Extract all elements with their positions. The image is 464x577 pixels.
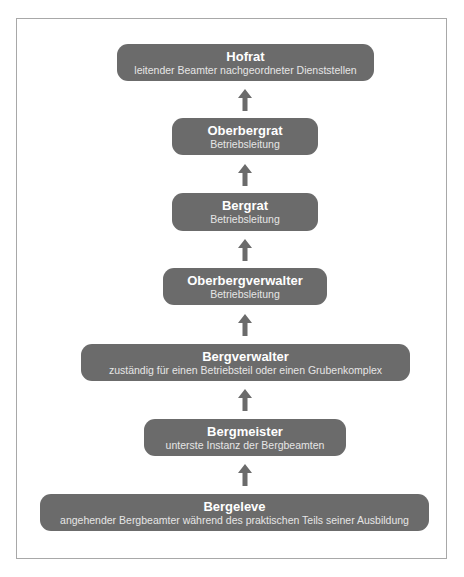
node-title: Bergverwalter <box>202 349 289 364</box>
node-bergverwalter: Bergverwalter zuständig für einen Betrie… <box>81 344 410 381</box>
node-subtitle: leitender Beamter nachgeordneter Diensts… <box>134 64 356 77</box>
arrow-up-icon <box>238 239 252 261</box>
node-title: Bergeleve <box>203 499 265 514</box>
node-title: Hofrat <box>226 49 264 64</box>
node-subtitle: unterste Instanz der Bergbeamten <box>166 439 325 452</box>
node-hofrat: Hofrat leitender Beamter nachgeordneter … <box>117 44 374 81</box>
arrow-up-icon <box>238 164 252 186</box>
node-bergrat: Bergrat Betriebsleitung <box>172 193 318 231</box>
arrow-up-icon <box>238 314 252 336</box>
node-title: Oberbergrat <box>207 123 282 138</box>
node-bergmeister: Bergmeister unterste Instanz der Bergbea… <box>144 419 346 456</box>
node-title: Bergmeister <box>207 424 283 439</box>
arrow-up-icon <box>238 389 252 411</box>
node-title: Bergrat <box>222 198 268 213</box>
node-oberbergverwalter: Oberbergverwalter Betriebsleitung <box>163 268 327 305</box>
node-title: Oberbergverwalter <box>187 273 303 288</box>
node-oberbergrat: Oberbergrat Betriebsleitung <box>172 118 318 155</box>
arrow-up-icon <box>238 464 252 486</box>
node-subtitle: angehender Bergbeamter während des prakt… <box>60 514 409 527</box>
node-bergeleve: Bergeleve angehender Bergbeamter während… <box>40 494 429 531</box>
node-subtitle: Betriebsleitung <box>210 138 279 151</box>
node-subtitle: zuständig für einen Betriebsteil oder ei… <box>109 364 382 377</box>
arrow-up-icon <box>238 89 252 111</box>
node-subtitle: Betriebsleitung <box>210 288 279 301</box>
node-subtitle: Betriebsleitung <box>210 213 279 226</box>
